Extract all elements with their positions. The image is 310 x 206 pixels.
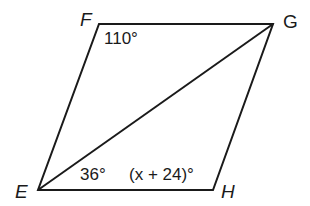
angle-label-f: 110°	[104, 30, 138, 47]
angle-label-h: (x + 24)°	[129, 166, 194, 183]
vertex-label-e: E	[15, 182, 28, 201]
angle-label-e: 36°	[80, 166, 106, 183]
angle-h-text: (x + 24)°	[129, 165, 194, 184]
vertex-label-g: G	[283, 12, 298, 31]
vertex-label-f: F	[80, 10, 92, 29]
vertex-label-h: H	[221, 182, 235, 201]
